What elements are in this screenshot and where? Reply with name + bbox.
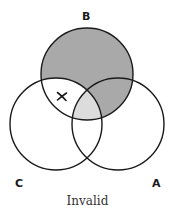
set-label-b: B [82, 11, 90, 22]
diagram-caption: Invalid [0, 195, 175, 207]
set-label-a: A [152, 178, 161, 189]
venn-diagram [0, 0, 175, 211]
set-label-c: C [15, 178, 23, 189]
